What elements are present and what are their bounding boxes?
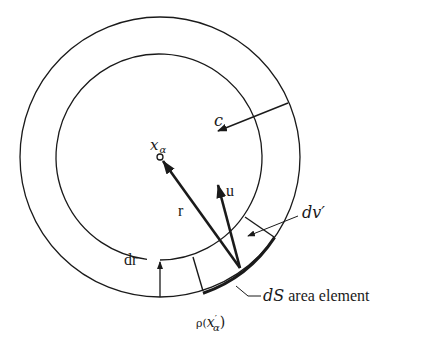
- volume-element-leader-arrow: [248, 216, 298, 236]
- shell-diagram: xα r u c dr dv′ dS area element ρ(x′α): [0, 0, 427, 345]
- light-speed-arrow: [218, 103, 288, 131]
- area-element-leader-line: [236, 286, 261, 296]
- radius-vector-label: r: [178, 202, 184, 219]
- area-element-label: dS area element: [263, 286, 370, 305]
- center-point-label: xα: [150, 136, 166, 155]
- light-speed-label: c: [214, 111, 223, 130]
- volume-element-label: dv′: [302, 203, 325, 222]
- volume-element-side-1: [193, 257, 203, 291]
- velocity-vector-label: u: [226, 182, 234, 199]
- radius-vector-arrow: [163, 161, 240, 268]
- shell-thickness-label: dr: [124, 251, 138, 268]
- density-label: ρ(x′α): [196, 313, 225, 333]
